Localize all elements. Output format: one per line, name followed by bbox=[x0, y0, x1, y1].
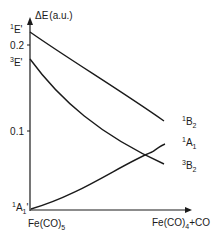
energy-correlation-diagram: ΔE(a.u.) 0.2 0.1 1E' 3E' 1A1' 1B2 1A1 3B… bbox=[0, 0, 218, 241]
state-label-3B2: 3B2 bbox=[182, 159, 197, 173]
y-axis-arrow-icon bbox=[27, 17, 33, 25]
state-label-1E-prime: 1E' bbox=[10, 23, 23, 35]
state-label-1A1: 1A1 bbox=[182, 136, 197, 150]
tick-label-0.2: 0.2 bbox=[10, 40, 24, 51]
y-axis-label: ΔE(a.u.) bbox=[35, 10, 73, 21]
x-end-label: Fe(CO)4+CO bbox=[152, 217, 210, 230]
state-label-1A1-prime: 1A1' bbox=[12, 201, 28, 215]
x-start-label: Fe(CO)5 bbox=[28, 218, 65, 231]
state-label-1B2: 1B2 bbox=[182, 115, 197, 129]
curve-3E-to-3B2 bbox=[30, 59, 164, 164]
x-axis-arrow-icon bbox=[185, 207, 192, 213]
curve-1A1-to-1A1 bbox=[31, 144, 165, 209]
tick-label-0.1: 0.1 bbox=[10, 126, 24, 137]
state-label-3E-prime: 3E' bbox=[10, 56, 23, 68]
curve-1E-to-1B2 bbox=[30, 32, 164, 121]
